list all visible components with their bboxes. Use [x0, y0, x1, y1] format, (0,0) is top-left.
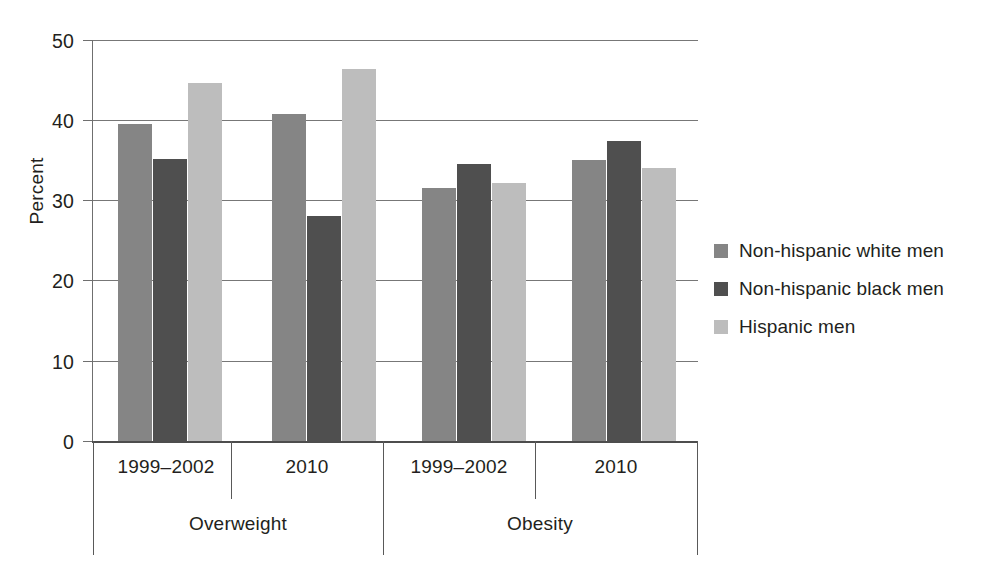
x-sub-label-obesity-1999-2002: 1999–2002: [395, 456, 523, 478]
bar: [422, 188, 456, 441]
bar: [118, 124, 152, 441]
x-group-label-obesity: Obesity: [475, 513, 605, 535]
bar: [607, 141, 641, 441]
legend-swatch-icon-black-men: [714, 282, 728, 296]
legend-item-non-hispanic-white-men: Non-hispanic white men: [714, 232, 944, 270]
x-sub-label-overweight-2010: 2010: [243, 456, 371, 478]
legend: Non-hispanic white men Non-hispanic blac…: [714, 232, 944, 346]
category-separator-overweight-inner: [231, 441, 232, 499]
bar: [272, 114, 306, 441]
bar: [342, 69, 376, 441]
legend-item-hispanic-men: Hispanic men: [714, 308, 944, 346]
bar: [153, 159, 187, 441]
bar: [457, 164, 491, 441]
bar: [492, 183, 526, 441]
x-sub-label-overweight-1999-2002: 1999–2002: [102, 456, 230, 478]
x-group-label-overweight: Overweight: [173, 513, 303, 535]
group-separator-middle: [383, 441, 384, 555]
bar: [572, 160, 606, 441]
category-separator-obesity-inner: [535, 441, 536, 499]
bar: [188, 83, 222, 441]
legend-label-hispanic-men: Hispanic men: [739, 316, 855, 338]
group-separator-right: [697, 441, 698, 555]
legend-label-non-hispanic-white-men: Non-hispanic white men: [739, 240, 944, 262]
bar: [642, 168, 676, 441]
x-sub-label-obesity-2010: 2010: [552, 456, 680, 478]
legend-label-non-hispanic-black-men: Non-hispanic black men: [739, 278, 944, 300]
legend-swatch-icon-white-men: [714, 244, 728, 258]
legend-swatch-icon-hispanic-men: [714, 320, 728, 334]
bar-chart: Percent 50 40 30 20 10 0 1999–2002 2010 …: [0, 0, 993, 580]
bar: [307, 216, 341, 441]
legend-item-non-hispanic-black-men: Non-hispanic black men: [714, 270, 944, 308]
group-separator-left: [93, 441, 94, 555]
